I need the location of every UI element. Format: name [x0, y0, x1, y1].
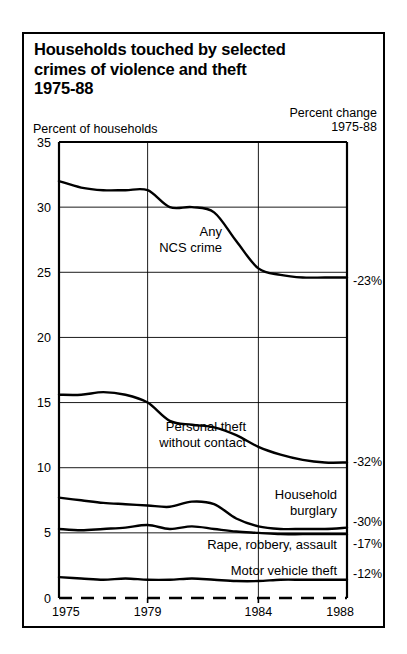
y-tick-label: 30: [37, 201, 51, 215]
percent-change-label: -23%: [353, 274, 382, 288]
y-tick-label-group: 05101520253035: [37, 136, 51, 606]
x-tick-label: 1984: [244, 605, 272, 619]
series-annotation-label: NCS crime: [159, 240, 222, 255]
series-annotation-label: Personal theft: [166, 419, 247, 434]
series-annotation-label: Household: [275, 487, 337, 502]
percent-change-label: -30%: [353, 515, 382, 529]
y-tick-label: 0: [44, 592, 51, 606]
x-tick-label-group: 1975197919841988: [52, 598, 354, 619]
series-annotation-label: Motor vehicle theft: [231, 563, 338, 578]
y-tick-label: 25: [37, 266, 51, 280]
series-annotation-label: Rape, robbery, assault: [207, 537, 337, 552]
x-tick-label: 1975: [52, 605, 80, 619]
y-tick-label: 20: [37, 331, 51, 345]
y-tick-label: 10: [37, 461, 51, 475]
series-annotation-label: burglary: [290, 503, 337, 518]
figure-container: Households touched by selected crimes of…: [0, 0, 407, 654]
percent-change-label: -32%: [353, 455, 382, 469]
percent-change-label: -12%: [353, 567, 382, 581]
y-tick-label: 15: [37, 396, 51, 410]
x-tick-label: 1988: [326, 605, 354, 619]
series-annotation-label: without contact: [158, 435, 246, 450]
percent-change-label: -17%: [353, 537, 382, 551]
y-tick-label: 35: [37, 136, 51, 150]
x-tick-label: 1979: [134, 605, 162, 619]
line-chart-plot: 05101520253035 1975197919841988 AnyNCS c…: [0, 0, 407, 654]
percent-change-label-group: -23%-32%-30%-17%-12%: [353, 274, 382, 581]
series-annotation-label: Any: [200, 224, 223, 239]
y-tick-label: 5: [44, 526, 51, 540]
